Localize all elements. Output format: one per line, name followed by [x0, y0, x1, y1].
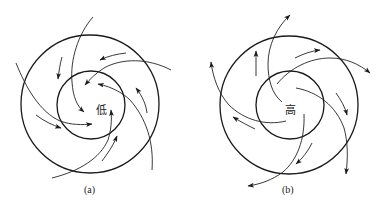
panel-a-outer-circle: [21, 35, 159, 173]
panel-b-streamline-right: [277, 58, 370, 84]
panel-a-streamline-right: [85, 61, 171, 85]
panel-a-cyclone: 低 (a): [16, 17, 171, 196]
panel-a-arrow-bottom: [102, 136, 117, 161]
panel-b-arrow-bottom: [296, 143, 312, 164]
panel-b-caption: (b): [282, 184, 294, 196]
panel-a-streamline-top: [72, 17, 93, 112]
panel-a-arrow-left: [36, 115, 61, 128]
panel-b-center-label: 高: [285, 103, 296, 117]
panel-b-arrow-right: [336, 93, 347, 115]
panel-a-arrow-upper-right: [100, 53, 126, 60]
panel-b-streamline-top: [268, 15, 290, 102]
panel-b-anticyclone: 高 (b): [211, 15, 370, 196]
panel-a-arrow-upper-left: [58, 57, 62, 79]
panel-a-center-label: 低: [96, 104, 107, 117]
panel-b-streamline-left: [211, 62, 286, 123]
panel-b-arrow-upper-right: [295, 50, 320, 58]
panel-a-caption: (a): [84, 184, 95, 196]
panel-a-streamline-lower-right: [98, 84, 152, 170]
cyclone-anticyclone-diagram: 低 (a) 高 (b): [0, 0, 382, 208]
panel-b-streamline-bottom: [248, 114, 304, 186]
panel-a-inner-circle: [57, 71, 125, 139]
